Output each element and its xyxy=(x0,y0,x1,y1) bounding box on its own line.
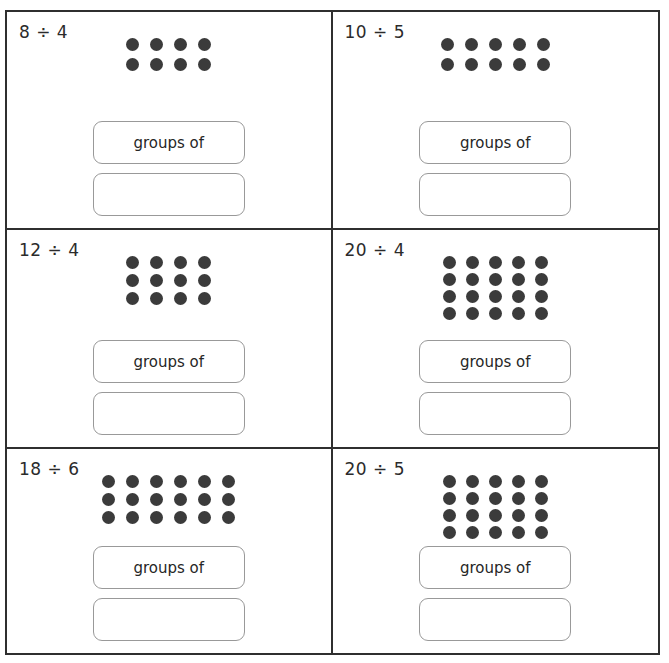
counter-dot xyxy=(512,526,525,539)
answer-input-box[interactable] xyxy=(419,598,571,641)
counter-dot xyxy=(489,475,502,488)
counter-dot xyxy=(198,256,211,269)
answer-boxes: groups of xyxy=(7,546,331,641)
counter-dot xyxy=(512,492,525,505)
answer-boxes: groups of xyxy=(7,340,331,435)
answer-input-box[interactable] xyxy=(93,598,245,641)
problem-cell: 12 ÷ 4groups of xyxy=(7,230,333,449)
counter-dot xyxy=(537,58,550,71)
counter-dot xyxy=(512,475,525,488)
counter-dot xyxy=(174,58,187,71)
counter-dot xyxy=(126,58,139,71)
counter-dot xyxy=(198,274,211,287)
dot-row xyxy=(441,38,550,51)
counter-dot xyxy=(441,58,454,71)
counter-dot xyxy=(150,256,163,269)
counter-dot xyxy=(489,256,502,269)
answer-input-box[interactable] xyxy=(419,173,571,216)
counter-dot xyxy=(198,493,211,506)
dot-array xyxy=(333,38,659,124)
counter-dot xyxy=(150,493,163,506)
problem-cell: 20 ÷ 4groups of xyxy=(333,230,659,449)
counter-dot xyxy=(102,493,115,506)
counter-dot xyxy=(222,511,235,524)
counter-dot xyxy=(512,307,525,320)
problem-cell: 20 ÷ 5groups of xyxy=(333,449,659,653)
counter-dot xyxy=(489,492,502,505)
counter-dot xyxy=(150,274,163,287)
counter-dot xyxy=(222,475,235,488)
dot-row xyxy=(102,475,235,488)
counter-dot xyxy=(174,493,187,506)
counter-dot xyxy=(126,493,139,506)
counter-dot xyxy=(535,256,548,269)
counter-dot xyxy=(150,292,163,305)
counter-dot xyxy=(174,256,187,269)
counter-dot xyxy=(198,475,211,488)
groups-of-box[interactable]: groups of xyxy=(419,546,571,589)
counter-dot xyxy=(535,492,548,505)
counter-dot xyxy=(198,58,211,71)
answer-boxes: groups of xyxy=(333,340,659,435)
counter-dot xyxy=(174,475,187,488)
dot-row xyxy=(126,274,211,287)
problem-cell: 18 ÷ 6groups of xyxy=(7,449,333,653)
dot-row xyxy=(441,58,550,71)
dot-array xyxy=(333,256,659,342)
counter-dot xyxy=(466,526,479,539)
counter-dot xyxy=(174,511,187,524)
counter-dot xyxy=(174,274,187,287)
counter-dot xyxy=(102,475,115,488)
counter-dot xyxy=(443,526,456,539)
dot-row xyxy=(443,307,548,320)
counter-dot xyxy=(466,256,479,269)
groups-of-box[interactable]: groups of xyxy=(419,340,571,383)
answer-input-box[interactable] xyxy=(419,392,571,435)
counter-dot xyxy=(535,526,548,539)
dot-row xyxy=(126,256,211,269)
counter-dot xyxy=(126,38,139,51)
counter-dot xyxy=(466,290,479,303)
counter-dot xyxy=(126,292,139,305)
counter-dot xyxy=(174,292,187,305)
counter-dot xyxy=(489,38,502,51)
groups-of-box[interactable]: groups of xyxy=(93,546,245,589)
dot-row xyxy=(126,58,211,71)
counter-dot xyxy=(512,256,525,269)
dot-array xyxy=(7,256,331,342)
counter-dot xyxy=(222,493,235,506)
groups-of-box[interactable]: groups of xyxy=(93,340,245,383)
answer-input-box[interactable] xyxy=(93,173,245,216)
counter-dot xyxy=(443,475,456,488)
counter-dot xyxy=(466,509,479,522)
groups-of-box[interactable]: groups of xyxy=(93,121,245,164)
counter-dot xyxy=(512,509,525,522)
counter-dot xyxy=(102,511,115,524)
counter-dot xyxy=(466,492,479,505)
dot-row xyxy=(126,38,211,51)
counter-dot xyxy=(198,511,211,524)
counter-dot xyxy=(443,256,456,269)
counter-dot xyxy=(537,38,550,51)
groups-of-box[interactable]: groups of xyxy=(419,121,571,164)
dot-row xyxy=(126,292,211,305)
counter-dot xyxy=(466,475,479,488)
counter-dot xyxy=(126,256,139,269)
counter-dot xyxy=(466,273,479,286)
counter-dot xyxy=(535,273,548,286)
counter-dot xyxy=(489,290,502,303)
counter-dot xyxy=(126,511,139,524)
counter-dot xyxy=(150,511,163,524)
counter-dot xyxy=(512,273,525,286)
counter-dot xyxy=(489,58,502,71)
answer-boxes: groups of xyxy=(333,546,659,641)
counter-dot xyxy=(198,38,211,51)
counter-dot xyxy=(535,307,548,320)
counter-dot xyxy=(441,38,454,51)
dot-row xyxy=(443,290,548,303)
counter-dot xyxy=(512,290,525,303)
counter-dot xyxy=(535,290,548,303)
counter-dot xyxy=(126,274,139,287)
answer-input-box[interactable] xyxy=(93,392,245,435)
counter-dot xyxy=(535,509,548,522)
